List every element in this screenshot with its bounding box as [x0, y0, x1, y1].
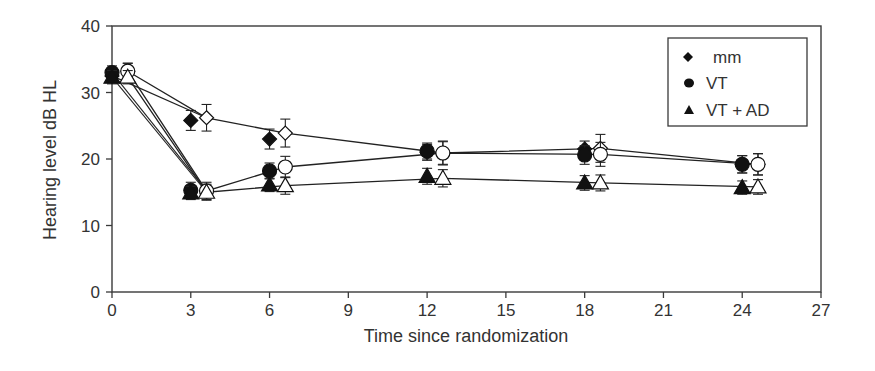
circle-marker-icon — [751, 157, 765, 171]
x-tick-label: 15 — [496, 301, 515, 320]
x-tick-label: 6 — [265, 301, 274, 320]
circle-marker-icon — [735, 157, 749, 171]
y-axis-label: Hearing level dB HL — [40, 80, 60, 240]
y-tick-label: 0 — [91, 283, 100, 302]
circle-marker-icon — [278, 160, 292, 174]
circle-marker-icon — [684, 79, 694, 88]
x-tick-label: 27 — [812, 301, 831, 320]
y-tick-label: 40 — [81, 17, 100, 36]
legend: mm VT VT + AD — [668, 38, 807, 126]
triangle-marker-icon — [419, 168, 435, 182]
diamond-marker-icon — [263, 132, 277, 146]
y-tick-label: 30 — [81, 84, 100, 103]
diamond-marker-icon — [200, 111, 214, 125]
circle-marker-icon — [593, 147, 607, 161]
y-axis-ticks: 010203040 — [81, 17, 112, 302]
legend-label-vt-ad: VT + AD — [706, 101, 769, 120]
chart: 0369121518212427 010203040 Time since ra… — [0, 0, 875, 371]
legend-label-mm: mm — [713, 48, 741, 67]
x-axis-label: Time since randomization — [364, 326, 568, 346]
triangle-marker-icon — [435, 170, 451, 184]
x-tick-label: 12 — [418, 301, 437, 320]
x-tick-label: 21 — [654, 301, 673, 320]
x-tick-label: 24 — [733, 301, 752, 320]
triangle-marker-icon — [592, 175, 608, 189]
triangle-marker-icon — [750, 179, 766, 193]
y-tick-label: 20 — [81, 150, 100, 169]
series-filled-vt-ad — [104, 69, 750, 199]
circle-marker-icon — [436, 146, 450, 160]
diamond-marker-icon — [184, 113, 198, 127]
x-tick-label: 3 — [186, 301, 195, 320]
triangle-marker-icon — [262, 177, 278, 191]
triangle-marker-icon — [277, 178, 293, 192]
y-tick-label: 10 — [81, 217, 100, 236]
data-series — [104, 63, 766, 200]
circle-marker-icon — [578, 148, 592, 162]
x-tick-label: 0 — [107, 301, 116, 320]
x-tick-label: 18 — [575, 301, 594, 320]
x-tick-label: 9 — [344, 301, 353, 320]
connector-line — [112, 77, 207, 192]
legend-label-vt: VT — [706, 74, 728, 93]
x-axis-ticks: 0369121518212427 — [107, 292, 830, 320]
diamond-marker-icon — [278, 126, 292, 140]
circle-marker-icon — [420, 144, 434, 158]
